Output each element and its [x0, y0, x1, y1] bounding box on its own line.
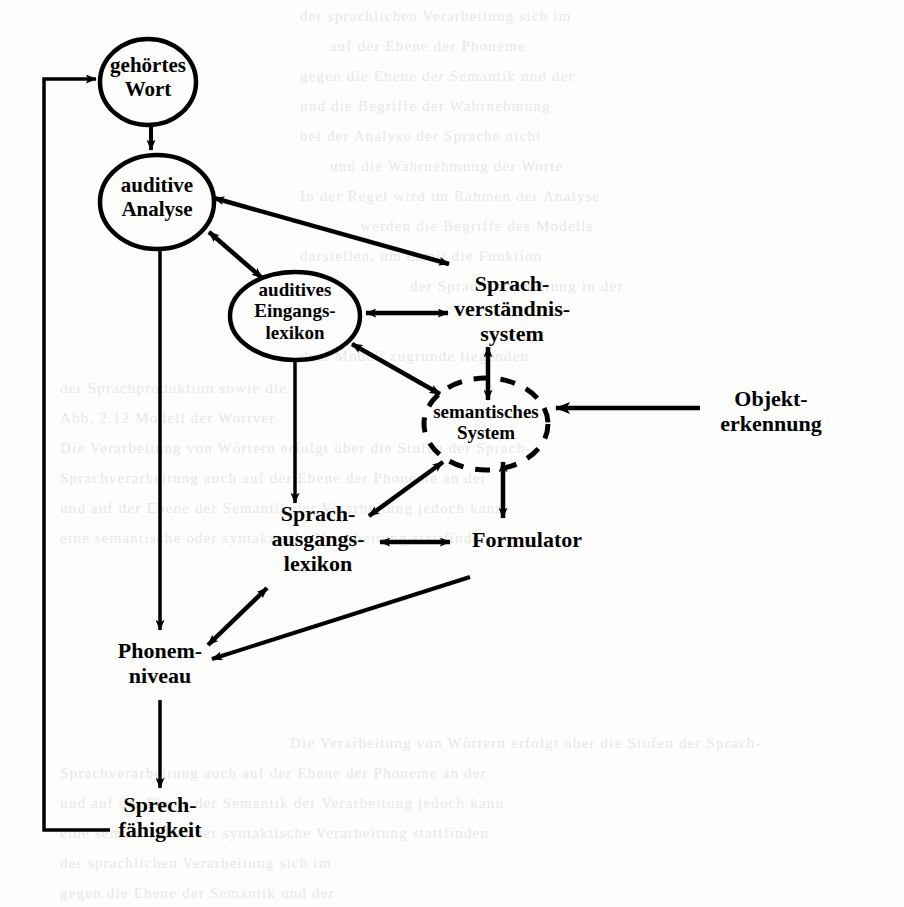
node-label-phonemniveau[interactable]: Phonem- niveau — [96, 639, 224, 689]
edge-formulator-to-phonemniveau — [212, 577, 470, 659]
node-label-auditives-eingangslexikon[interactable]: auditives Eingangs- lexikon — [228, 279, 362, 343]
node-label-objekterkennung[interactable]: Objekt- erkennung — [691, 387, 851, 437]
edge-sprachausgangslexikon-to-phonemniveau — [208, 588, 267, 645]
edge-auditive-analyse-to-sprachverstaendnissystem — [214, 198, 449, 264]
node-label-gehoertes-wort[interactable]: gehörtes Wort — [98, 54, 198, 101]
diagram-canvas — [0, 0, 904, 907]
node-label-sprachausgangslexikon[interactable]: Sprach- ausgangs- lexikon — [238, 502, 398, 577]
node-label-semantisches-system[interactable]: semantisches System — [424, 401, 548, 444]
node-label-auditive-analyse[interactable]: auditive Analyse — [97, 174, 217, 221]
diagram-page: der sprachlichen Verarbeitung sich im au… — [0, 0, 904, 907]
node-label-sprechfaehigkeit[interactable]: Sprech- fähigkeit — [96, 793, 224, 843]
node-label-sprachverstaendnissystem[interactable]: Sprach- verständnis- system — [432, 272, 592, 347]
node-label-formulator[interactable]: Formulator — [447, 528, 607, 553]
edge-auditive-analyse-to-eingangslexikon — [209, 232, 262, 278]
edge-eingangslexikon-to-semantisches-system — [352, 344, 440, 394]
